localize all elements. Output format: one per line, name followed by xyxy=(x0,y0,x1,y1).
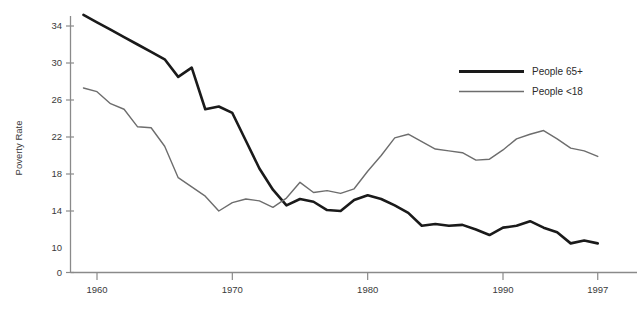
y-tick-label-34: 34 xyxy=(51,20,62,31)
x-tick-label-1960: 1960 xyxy=(86,284,107,295)
legend-label-people-under-18: People <18 xyxy=(532,86,583,97)
y-tick-label-14: 14 xyxy=(51,205,62,216)
y-tick-label-26: 26 xyxy=(51,94,62,105)
x-tick-label-1997: 1997 xyxy=(587,284,608,295)
chart-legend: People 65+ People <18 xyxy=(459,66,583,97)
series-line-people-18 xyxy=(83,88,597,211)
y-axis-title: Poverty Rate xyxy=(13,121,24,176)
y-tick-label-30: 30 xyxy=(51,57,62,68)
poverty-rate-line-chart: 343026221814100 19601970198019901997 Pov… xyxy=(0,0,644,317)
x-tick-label-1970: 1970 xyxy=(222,284,243,295)
x-tick-label-1990: 1990 xyxy=(492,284,513,295)
y-tick-label-0: 0 xyxy=(57,267,62,278)
y-tick-label-10: 10 xyxy=(51,242,62,253)
series-line-people-65 xyxy=(83,15,597,243)
chart-container: 343026221814100 19601970198019901997 Pov… xyxy=(0,0,644,317)
y-tick-label-22: 22 xyxy=(51,131,62,142)
x-tick-label-1980: 1980 xyxy=(357,284,378,295)
legend-label-people-65-plus: People 65+ xyxy=(532,66,583,77)
series-lines xyxy=(83,15,597,243)
x-axis-ticks: 19601970198019901997 xyxy=(86,273,608,296)
y-tick-label-18: 18 xyxy=(51,168,62,179)
